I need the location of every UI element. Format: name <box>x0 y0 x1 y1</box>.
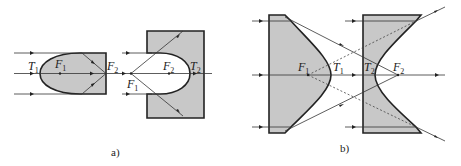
optics-diagram: T1 F1 F2 F1 F2 T2 a) <box>0 0 461 166</box>
label-b-F2: F2 <box>392 60 404 76</box>
focus-point <box>59 72 61 74</box>
arrow-icon <box>352 73 356 77</box>
caption-a: a) <box>111 146 120 159</box>
ray-b-exit-top <box>416 7 445 21</box>
arrow-icon <box>122 72 126 76</box>
arrow-icon <box>352 19 356 23</box>
arrow-icon <box>259 73 263 77</box>
ray-b-virtual-bottom <box>308 75 416 127</box>
arrow-icon <box>259 125 263 129</box>
label-a-F2-right: F2 <box>162 59 174 75</box>
focus-point <box>397 74 399 76</box>
arrow-icon <box>339 104 344 107</box>
ellipsoid-cavity-block <box>147 31 204 118</box>
arrow-icon <box>126 51 130 55</box>
label-a-T1: T1 <box>28 59 39 75</box>
caption-b: b) <box>340 142 350 155</box>
arrow-icon <box>434 10 438 13</box>
hyperboloid-lens-solid <box>269 15 331 133</box>
label-a-F1-right: F1 <box>126 77 138 93</box>
arrow-icon <box>126 92 130 96</box>
focus-point <box>130 72 132 74</box>
arrow-icon <box>259 19 263 23</box>
arrow-icon <box>352 125 356 129</box>
arrow-icon <box>434 135 438 138</box>
ray-b-exit-bottom <box>416 127 445 141</box>
arrow-icon <box>30 51 34 55</box>
label-a-F2-left: F2 <box>106 59 118 75</box>
panel-a: T1 F1 F2 F1 F2 T2 a) <box>14 31 212 159</box>
arrow-icon <box>435 73 439 77</box>
arrow-icon <box>30 92 34 96</box>
label-b-T1: T1 <box>333 60 344 76</box>
panel-b: F1 T1 T2 F2 b) <box>252 7 445 155</box>
